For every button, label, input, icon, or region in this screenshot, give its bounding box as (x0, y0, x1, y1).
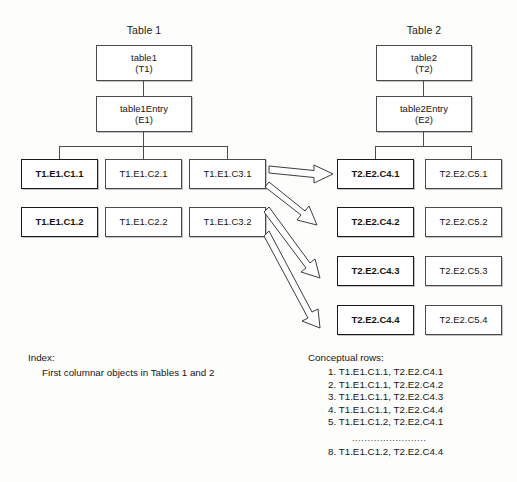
cell-label: T1.E1.C3.2 (203, 216, 251, 228)
cell-label: T2.E2.C5.3 (439, 265, 487, 277)
cell-label: T1.E1.C3.1 (203, 168, 251, 180)
diagram-canvas: Table 1 table1 (T1) table1Entry (E1) T1.… (0, 0, 517, 482)
cell-label: T2.E2.C4.3 (351, 265, 399, 277)
cell-t2-c5-3: T2.E2.C5.3 (425, 256, 502, 286)
cell-t1-c3-2: T1.E1.C3.2 (189, 207, 266, 237)
cell-t1-c3-1: T1.E1.C3.1 (189, 159, 266, 189)
cell-t1-c1-2: T1.E1.C1.2 (21, 207, 98, 237)
table2-root-label-line2: (T2) (415, 63, 432, 75)
table2-branch-c5 (471, 146, 472, 159)
table2-root-to-entry-connector (423, 81, 424, 96)
table2-entry-trunk (423, 132, 424, 146)
cell-label: T2.E2.C4.1 (351, 168, 399, 180)
list-item: 4. T1.E1.C1.1, T2.E2.C4.4 (328, 404, 443, 417)
conceptual-rows-heading: Conceptual rows: (308, 352, 443, 363)
rows-last-item: 8. T1.E1.C1.2, T2.E2.C4.4 (328, 446, 443, 457)
table1-title: Table 1 (96, 24, 192, 36)
cell-t2-c4-3: T2.E2.C4.3 (337, 256, 414, 286)
rows-ellipsis: ........................ (352, 433, 443, 443)
cell-label: T2.E2.C5.1 (439, 168, 487, 180)
conceptual-rows-list: 1. T1.E1.C1.1, T2.E2.C4.1 2. T1.E1.C1.1,… (328, 366, 443, 429)
table1-entry-label-line1: table1Entry (120, 103, 168, 115)
cell-t2-c5-2: T2.E2.C5.2 (425, 207, 502, 237)
cell-t2-c4-4: T2.E2.C4.4 (337, 305, 414, 335)
cell-t2-c4-1: T2.E2.C4.1 (337, 159, 414, 189)
mapping-arrow-3 (264, 207, 320, 278)
table1-branch-c3 (227, 146, 228, 159)
table1-entry-trunk (143, 132, 144, 146)
table2-title: Table 2 (376, 24, 472, 36)
table2-root-label-line1: table2 (411, 52, 437, 64)
cell-label: T2.E2.C4.4 (351, 314, 399, 326)
list-item: 5. T1.E1.C1.2, T2.E2.C4.1 (328, 416, 443, 429)
cell-label: T1.E1.C2.2 (119, 216, 167, 228)
table2-entry-node: table2Entry (E2) (376, 96, 472, 132)
cell-t2-c4-2: T2.E2.C4.2 (337, 207, 414, 237)
table2-root-node: table2 (T2) (376, 45, 472, 81)
index-caption-heading: Index: (28, 352, 214, 363)
table2-branch-c4 (375, 146, 376, 159)
index-caption: Index: First columnar objects in Tables … (28, 352, 214, 378)
conceptual-rows-caption: Conceptual rows: 1. T1.E1.C1.1, T2.E2.C4… (308, 352, 443, 457)
cell-label: T1.E1.C1.2 (35, 216, 83, 228)
cell-t2-c5-1: T2.E2.C5.1 (425, 159, 502, 189)
table1-root-node: table1 (T1) (96, 45, 192, 81)
mapping-arrow-1 (269, 165, 333, 183)
mapping-arrow-2 (265, 182, 317, 225)
index-caption-line: First columnar objects in Tables 1 and 2 (42, 367, 214, 378)
table1-branch-c1 (59, 146, 60, 159)
mapping-arrow-4 (264, 231, 320, 328)
list-item: 2. T1.E1.C1.1, T2.E2.C4.2 (328, 379, 443, 392)
cell-label: T2.E2.C5.4 (439, 314, 487, 326)
table1-root-label-line2: (T1) (135, 63, 152, 75)
list-item: 3. T1.E1.C1.1, T2.E2.C4.3 (328, 391, 443, 404)
table2-entry-label-line1: table2Entry (400, 103, 448, 115)
cell-label: T2.E2.C5.2 (439, 216, 487, 228)
cell-t1-c1-1: T1.E1.C1.1 (21, 159, 98, 189)
cell-t2-c5-4: T2.E2.C5.4 (425, 305, 502, 335)
table1-root-label-line1: table1 (131, 52, 157, 64)
table1-entry-label-line2: (E1) (135, 114, 153, 126)
table2-entry-label-line2: (E2) (415, 114, 433, 126)
cell-t1-c2-1: T1.E1.C2.1 (105, 159, 182, 189)
table1-root-to-entry-connector (143, 81, 144, 96)
list-item: 1. T1.E1.C1.1, T2.E2.C4.1 (328, 366, 443, 379)
table1-branch-c2 (143, 146, 144, 159)
cell-t1-c2-2: T1.E1.C2.2 (105, 207, 182, 237)
cell-label: T1.E1.C1.1 (35, 168, 83, 180)
cell-label: T1.E1.C2.1 (119, 168, 167, 180)
table2-column-bus (375, 146, 471, 147)
cell-label: T2.E2.C4.2 (351, 216, 399, 228)
table1-entry-node: table1Entry (E1) (96, 96, 192, 132)
